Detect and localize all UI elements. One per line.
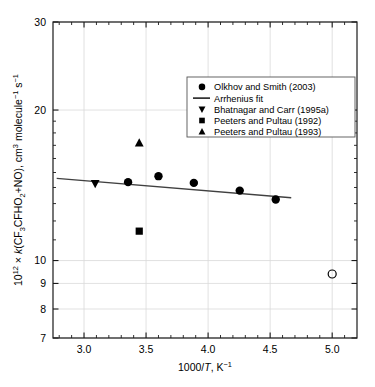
marker-filled-circle [236, 186, 244, 194]
y-tick-label: 7 [40, 332, 46, 344]
legend-label: Bhatnagar and Carr (1995a) [214, 105, 329, 115]
y-tick-label: 8 [40, 303, 46, 315]
x-axis-title: 1000/T, K−1 [178, 360, 232, 373]
plot-frame [53, 22, 357, 338]
marker-filled-circle [272, 195, 280, 203]
x-tick-label: 3.5 [139, 343, 154, 355]
y-axis-tick-labels: 789102030 [34, 16, 46, 344]
marker-filled-square [199, 118, 205, 124]
arrhenius-plot: 3.03.54.04.55.0 789102030 Olkhov and Smi… [0, 0, 375, 387]
legend-entry: Bhatnagar and Carr (1995a) [199, 105, 329, 115]
x-tick-label: 3.0 [77, 343, 92, 355]
figure-container: 3.03.54.04.55.0 789102030 Olkhov and Smi… [0, 0, 375, 387]
y-tick-label: 10 [34, 254, 46, 266]
legend-label: Arrhenius fit [214, 94, 263, 104]
y-tick-label: 30 [34, 16, 46, 28]
x-axis-tick-labels: 3.03.54.04.55.0 [77, 343, 340, 355]
gridlines [53, 22, 357, 338]
data-markers [91, 138, 336, 278]
x-tick-label: 5.0 [325, 343, 340, 355]
marker-filled-circle [124, 178, 132, 186]
marker-filled-circle [154, 172, 162, 180]
legend-label: Peeters and Pultau (1992) [214, 116, 321, 126]
legend-entry: Peeters and Pultau (1992) [199, 116, 321, 126]
y-axis-title: 1012 × k(CF3CFHO2+NO), cm3 molecule−1 s−… [11, 74, 26, 286]
marker-filled-circle [199, 84, 206, 91]
legend-entry: Olkhov and Smith (2003) [199, 82, 316, 92]
marker-filled-down-triangle [91, 180, 100, 188]
y-tick-label: 20 [34, 104, 46, 116]
marker-filled-circle [190, 179, 198, 187]
legend-label: Olkhov and Smith (2003) [214, 82, 316, 92]
marker-filled-up-triangle [135, 138, 144, 146]
legend-entry: Peeters and Pultau (1993) [199, 127, 322, 137]
y-tick-label: 9 [40, 277, 46, 289]
legend: Olkhov and Smith (2003)Arrhenius fitBhat… [187, 77, 355, 137]
tick-marks [53, 22, 357, 338]
legend-label: Peeters and Pultau (1993) [214, 127, 321, 137]
marker-filled-square [136, 228, 143, 235]
x-tick-label: 4.5 [263, 343, 278, 355]
x-tick-label: 4.0 [201, 343, 216, 355]
